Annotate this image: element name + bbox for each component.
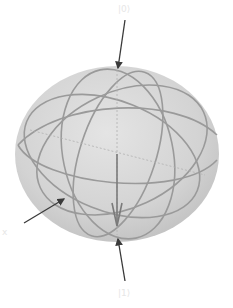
bloch-sphere-diagram: |0⟩ x |1⟩ [0,0,233,308]
label-left: x [2,227,7,237]
bloch-sphere-svg [0,0,233,308]
label-bottom: |1⟩ [118,288,130,298]
arrow-top [118,20,125,68]
arrow-bottom [118,239,125,281]
label-top: |0⟩ [118,4,130,14]
